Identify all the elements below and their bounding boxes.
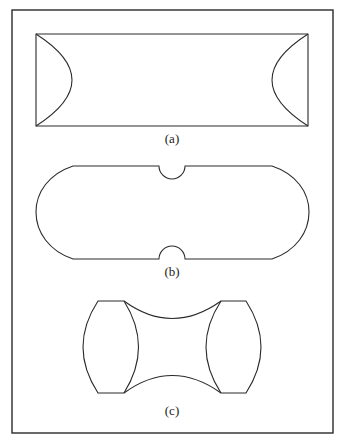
panel-a-left-arc — [36, 34, 72, 126]
panel-b: (b) — [36, 166, 309, 279]
panel-a-right-arc — [272, 34, 308, 126]
diagram-canvas: (a) (b) (c) — [0, 0, 348, 440]
panel-c-left-lens — [83, 301, 139, 393]
panel-b-notched-stadium — [36, 166, 309, 259]
panel-c-label: (c) — [165, 403, 179, 418]
panel-b-label: (b) — [164, 264, 179, 279]
panel-a-label: (a) — [165, 131, 179, 146]
outer-frame — [12, 10, 333, 433]
panel-a: (a) — [36, 34, 308, 146]
panel-c-top-concave-curve — [124, 301, 221, 319]
panel-c-right-lens — [206, 301, 261, 393]
panel-a-rectangle — [36, 34, 308, 126]
panel-c-bottom-concave-curve — [124, 376, 221, 394]
panel-c: (c) — [83, 301, 261, 418]
